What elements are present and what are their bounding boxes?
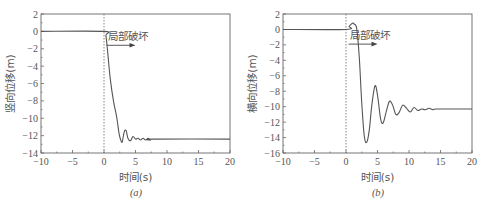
panel-caption: (b) — [372, 187, 385, 199]
y-tick-label: −14 — [22, 148, 38, 159]
x-tick-label: 20 — [225, 156, 235, 167]
y-tick-label: −8 — [269, 86, 280, 97]
y-tick-label: −16 — [264, 148, 280, 159]
chart-b: −10−50510152020−2−4−6−8−10−12−14−16时间(s)… — [246, 9, 477, 200]
x-tick-label: 15 — [436, 156, 446, 167]
y-tick-label: −6 — [269, 70, 280, 81]
x-tick-label: 15 — [194, 156, 204, 167]
y-tick-label: −2 — [269, 39, 280, 50]
y-tick-label: 2 — [275, 9, 280, 20]
y-tick-label: −14 — [264, 132, 280, 143]
x-tick-label: 10 — [162, 156, 172, 167]
x-tick-label: −5 — [309, 156, 320, 167]
x-tick-label: 20 — [467, 156, 477, 167]
x-tick-label: 5 — [133, 156, 138, 167]
y-axis-title: 竖向位移(m) — [4, 54, 16, 112]
x-axis-title: 时间(s) — [361, 171, 395, 183]
figure: −10−50510152020−2−4−6−8−10−12−14时间(s)竖向位… — [0, 0, 484, 205]
annotation-label: 局部破坏 — [350, 29, 391, 41]
y-tick-label: −12 — [22, 130, 38, 141]
data-line — [41, 31, 230, 142]
y-tick-label: −6 — [27, 78, 38, 89]
y-tick-label: −4 — [269, 55, 280, 66]
panel-caption: (a) — [130, 187, 143, 199]
x-tick-label: 5 — [375, 156, 380, 167]
y-tick-label: −10 — [264, 101, 280, 112]
x-tick-label: 0 — [344, 156, 349, 167]
x-axis-title: 时间(s) — [119, 171, 153, 183]
x-tick-label: 10 — [404, 156, 414, 167]
y-tick-label: −2 — [27, 43, 38, 54]
y-tick-label: 0 — [33, 26, 38, 37]
y-tick-label: −12 — [264, 117, 280, 128]
x-tick-label: −5 — [67, 156, 78, 167]
chart-a: −10−50510152020−2−4−6−8−10−12−14时间(s)竖向位… — [4, 9, 235, 200]
y-axis-title: 横向位移(m) — [246, 54, 258, 112]
y-tick-label: −10 — [22, 113, 38, 124]
y-tick-label: 2 — [33, 9, 38, 20]
y-tick-label: −4 — [27, 61, 38, 72]
y-tick-label: −8 — [27, 95, 38, 106]
y-tick-label: 0 — [275, 24, 280, 35]
annotation-label: 局部破坏 — [108, 30, 149, 42]
arrow-head-icon — [372, 42, 378, 47]
x-tick-label: 0 — [102, 156, 107, 167]
arrow-head-icon — [130, 43, 136, 48]
